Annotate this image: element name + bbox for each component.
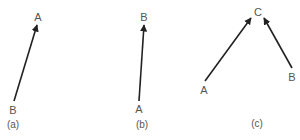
panel-b-caption: (b) — [136, 120, 148, 130]
panel-c-caption: (c) — [251, 119, 263, 129]
panel-b-label-a: A — [135, 104, 142, 115]
panel-c-label-b: B — [288, 72, 295, 83]
panel-b-arrow — [139, 25, 144, 101]
panel-c-arrow-a-to-c — [205, 18, 251, 81]
panel-c-label-a: A — [200, 85, 207, 96]
panel-c-label-c: C — [254, 7, 262, 18]
panel-a-label-a: A — [34, 12, 41, 23]
panel-c-arrow-b-to-c — [264, 18, 292, 68]
panel-a-caption: (a) — [7, 120, 19, 130]
panel-a-label-b: B — [9, 105, 16, 116]
panel-a-arrow — [14, 25, 37, 101]
panel-b-label-b: B — [140, 12, 147, 23]
